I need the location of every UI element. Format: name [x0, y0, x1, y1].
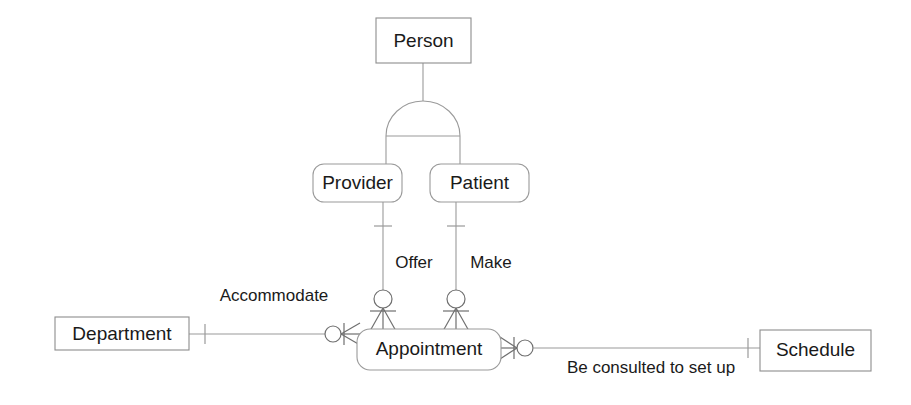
cardinality-zero-circle-consulted [517, 340, 533, 356]
er-diagram-svg: Person Provider Patient Appointment Depa… [0, 0, 911, 405]
entity-layer: Person Provider Patient Appointment Depa… [55, 18, 871, 371]
relationship-label-make: Make [470, 253, 512, 272]
entity-department[interactable]: Department [55, 317, 189, 350]
relationship-label-offer: Offer [395, 253, 433, 272]
cardinality-zero-circle-make [447, 290, 465, 308]
entity-patient[interactable]: Patient [430, 164, 529, 202]
entity-department-label: Department [72, 323, 172, 344]
entity-provider-label: Provider [322, 172, 393, 193]
entity-appointment[interactable]: Appointment [357, 329, 501, 370]
connector-layer [189, 63, 760, 359]
entity-appointment-label: Appointment [376, 338, 483, 359]
cardinality-zero-circle-offer [374, 290, 392, 308]
entity-patient-label: Patient [450, 172, 510, 193]
crowfoot-make-icon [443, 308, 469, 331]
entity-schedule[interactable]: Schedule [760, 330, 871, 371]
relationship-label-be-consulted-to-set-up: Be consulted to set up [567, 358, 735, 377]
crowfoot-consulted-icon [500, 337, 517, 359]
generalization-arc-icon [386, 101, 460, 136]
crowfoot-offer-icon [370, 308, 396, 331]
entity-person-label: Person [393, 30, 453, 51]
entity-schedule-label: Schedule [776, 339, 855, 360]
er-diagram-canvas: Person Provider Patient Appointment Depa… [0, 0, 911, 405]
entity-provider[interactable]: Provider [313, 164, 402, 202]
relationship-label-accommodate: Accommodate [220, 286, 329, 305]
entity-person[interactable]: Person [376, 18, 471, 63]
cardinality-zero-circle-accommodate [325, 326, 341, 342]
